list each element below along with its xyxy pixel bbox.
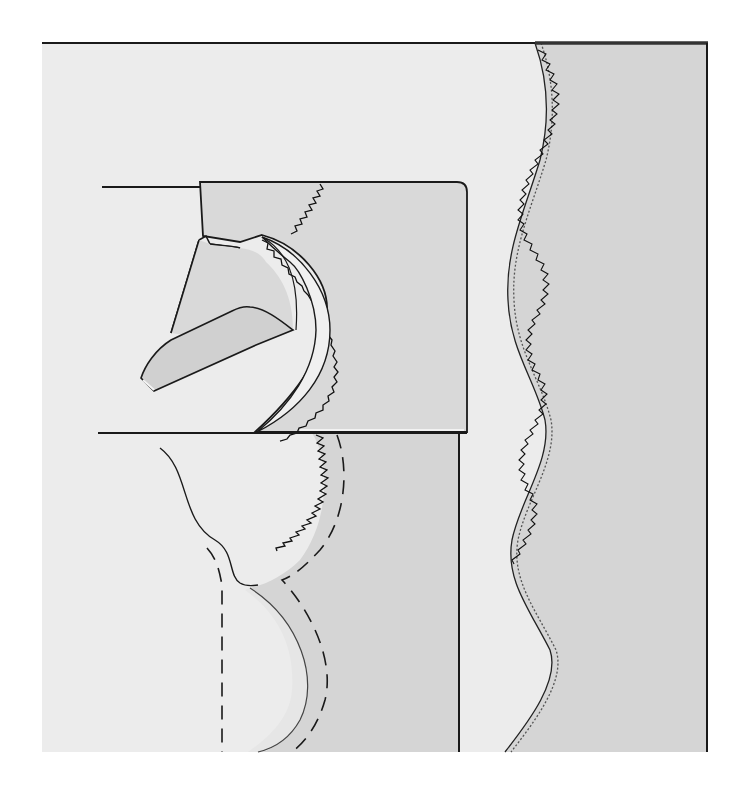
sewing-illustration [0, 0, 748, 801]
